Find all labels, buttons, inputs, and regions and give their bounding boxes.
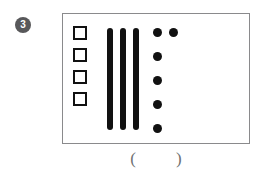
close-paren: ) — [176, 150, 182, 167]
figure-panel — [62, 13, 250, 144]
hollow-square-icon — [73, 26, 87, 40]
answer-parentheses: ( ) — [62, 146, 250, 170]
filled-dot-icon — [153, 124, 162, 133]
filled-dot-icon — [153, 100, 162, 109]
dots-group — [151, 26, 191, 134]
vertical-bar-icon — [107, 28, 113, 130]
squares-group — [73, 26, 89, 106]
worksheet-page: 3 ( ) — [0, 0, 265, 172]
answer-input[interactable] — [136, 150, 176, 166]
filled-dot-icon — [153, 28, 162, 37]
filled-dot-icon — [153, 52, 162, 61]
filled-dot-icon — [169, 28, 178, 37]
bars-group — [107, 28, 139, 130]
hollow-square-icon — [73, 70, 87, 84]
filled-dot-icon — [153, 76, 162, 85]
vertical-bar-icon — [133, 28, 139, 130]
hollow-square-icon — [73, 48, 87, 62]
hollow-square-icon — [73, 92, 87, 106]
vertical-bar-icon — [120, 28, 126, 130]
question-number-badge: 3 — [15, 17, 31, 33]
